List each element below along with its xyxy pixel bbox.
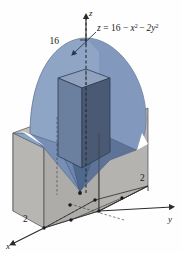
paraboloid-figure: z 16 y 2 x 2 z=16−x2−2y2 xyxy=(0,0,182,253)
grid-point xyxy=(69,218,72,221)
equation-constant: 16 xyxy=(111,23,121,33)
y-axis-label: y xyxy=(167,214,172,224)
equation-minus-1: − xyxy=(123,23,128,33)
grid-point xyxy=(68,203,71,206)
z-tick-label-16: 16 xyxy=(50,36,60,46)
surface-equation-label: z=16−x2−2y2 xyxy=(96,23,158,33)
grid-point-origin xyxy=(78,191,82,195)
figure-canvas: z 16 y 2 x 2 z=16−x2−2y2 xyxy=(0,0,182,253)
prism-left-face xyxy=(58,78,82,168)
equation-minus-2: − xyxy=(139,23,144,33)
z-axis-label: z xyxy=(88,8,93,18)
grid-point xyxy=(93,198,96,201)
svg-text:z=16−x2−2y2: z=16−x2−2y2 xyxy=(96,23,158,33)
x-axis-label: x xyxy=(5,241,10,251)
equation-equals: = xyxy=(103,23,108,33)
equation-lead-z: z xyxy=(96,23,101,33)
grid-point xyxy=(120,196,123,199)
representative-prism xyxy=(58,69,110,168)
gray-box-front-left-face xyxy=(13,133,44,228)
x-tick-label-2: 2 xyxy=(23,214,28,224)
equation-exp-x: 2 xyxy=(135,23,138,29)
equation-exp-y: 2 xyxy=(155,23,158,29)
y-tick-label-2: 2 xyxy=(140,173,145,183)
